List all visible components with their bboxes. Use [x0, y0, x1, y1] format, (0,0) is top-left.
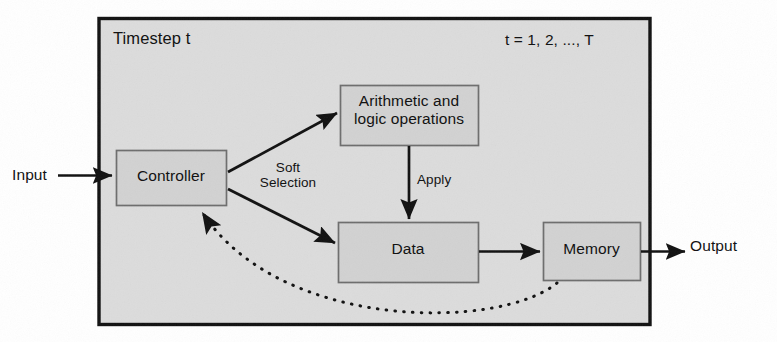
node-alu-label: Arithmetic and logic operations: [340, 92, 478, 127]
node-controller-label: Controller: [116, 167, 226, 185]
figure-canvas: Timestep t t = 1, 2, ..., T Input Output…: [0, 0, 777, 342]
timestep-title: Timestep t: [113, 29, 190, 48]
edge-label-soft-selection: Soft Selection: [240, 160, 336, 191]
timestep-range-label: t = 1, 2, ..., T: [505, 31, 594, 49]
output-label: Output: [690, 237, 737, 255]
node-data-label: Data: [338, 240, 478, 258]
input-label: Input: [12, 166, 47, 184]
node-memory-label: Memory: [543, 240, 640, 258]
edge-label-apply: Apply: [417, 172, 451, 187]
